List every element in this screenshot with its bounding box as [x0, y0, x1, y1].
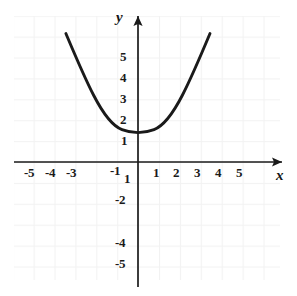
x-tick-label: -4 — [45, 166, 55, 179]
y-tick-label: 1 — [121, 134, 127, 147]
x-tick-label: 2 — [173, 166, 179, 179]
y-axis-label: y — [116, 10, 123, 25]
y-tick-label: 5 — [120, 50, 126, 63]
y-tick-label: -2 — [115, 193, 125, 206]
x-axis-label: x — [276, 168, 284, 183]
background-grid — [14, 16, 280, 280]
y-tick-label: 3 — [120, 92, 126, 105]
x-tick-label: 1 — [153, 166, 159, 179]
x-tick-label: -3 — [66, 166, 76, 179]
y-tick-label: -4 — [115, 236, 125, 249]
x-tick-label: 5 — [236, 166, 242, 179]
graph-figure: -5 -4 -3 -1 1 2 3 4 5 5 4 3 2 1 1 -2 -4 … — [0, 0, 297, 296]
x-tick-label: -5 — [24, 166, 34, 179]
coordinate-plane-svg — [0, 0, 297, 296]
x-tick-label: -1 — [110, 164, 120, 177]
x-tick-label: 4 — [215, 166, 221, 179]
y-tick-label: 4 — [120, 71, 126, 84]
x-tick-label: 3 — [194, 166, 200, 179]
y-tick-label: -5 — [115, 257, 125, 270]
y-tick-label: 1 — [124, 172, 130, 185]
y-tick-label: 2 — [120, 113, 126, 126]
